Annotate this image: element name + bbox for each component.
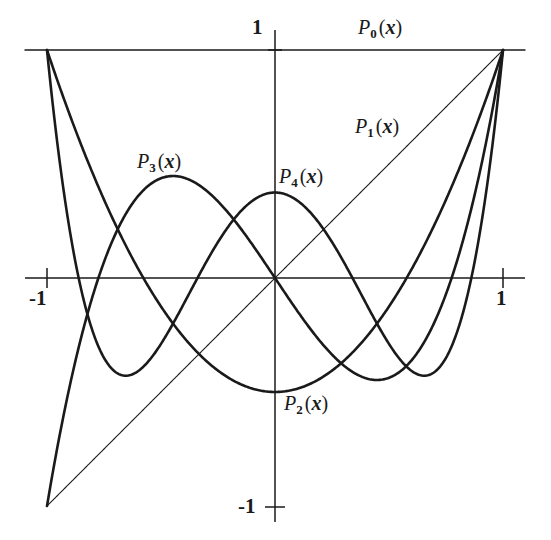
curve-label-p1-subscript: 1 (367, 125, 374, 140)
curve-label-p0-subscript: 0 (370, 26, 377, 41)
y-axis-tick-label-top: 1 (252, 17, 263, 38)
curve-label-p1: P1(x) (355, 116, 399, 139)
curve-label-p3: P3(x) (137, 151, 181, 174)
curve-label-p3-base: P (137, 150, 149, 172)
curve-label-p4: P4(x) (279, 166, 323, 189)
legendre-polynomials-figure: 1 -1 -1 1 P0(x) P1(x) P2(x) P3(x) P4(x) (0, 0, 551, 540)
curve-label-p3-arg: (x) (158, 150, 181, 172)
x-axis-tick-label-right: 1 (496, 288, 507, 309)
curve-label-p2-base: P (284, 392, 296, 414)
curve-label-p0-base: P (358, 16, 370, 38)
curve-label-p2-arg: (x) (305, 392, 328, 414)
curve-label-p2: P2(x) (284, 393, 328, 416)
curve-label-p0: P0(x) (358, 17, 402, 40)
curve-label-p4-base: P (279, 165, 291, 187)
curve-label-p0-arg: (x) (379, 16, 402, 38)
curve-label-p2-subscript: 2 (296, 402, 303, 417)
curve-label-p1-arg: (x) (376, 115, 399, 137)
curve-label-p3-subscript: 3 (149, 160, 156, 175)
curve-label-p1-base: P (355, 115, 367, 137)
curve-label-p4-arg: (x) (300, 165, 323, 187)
y-axis-tick-label-bottom: -1 (238, 496, 256, 517)
plot-canvas (0, 0, 551, 540)
x-axis-tick-label-left: -1 (29, 288, 47, 309)
curve-label-p4-subscript: 4 (291, 175, 298, 190)
